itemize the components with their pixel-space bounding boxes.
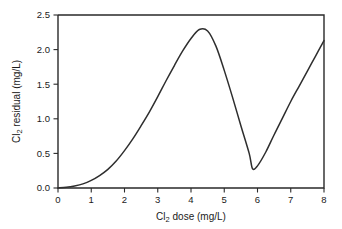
- x-tick-label: 3: [155, 194, 160, 205]
- y-tick-label: 1.0: [37, 113, 50, 124]
- chart-figure: 0.0 0.5 1.0 1.5 2.0 2.5 0 1 2 3 4 5 6 7 …: [0, 0, 342, 229]
- x-axis-title-pre: Cl: [156, 211, 165, 222]
- y-axis-title-pre: Cl: [11, 134, 22, 143]
- x-tick-label: 4: [188, 194, 193, 205]
- x-axis-title-post: dose (mg/L): [170, 211, 226, 222]
- x-tick-label: 7: [288, 194, 293, 205]
- y-tick-label: 1.5: [37, 79, 50, 90]
- x-tick-label: 8: [321, 194, 326, 205]
- x-tick-label: 0: [55, 194, 60, 205]
- y-tick-label: 0.0: [37, 182, 50, 193]
- x-tick-label: 5: [222, 194, 227, 205]
- y-tick-label: 2.0: [37, 44, 50, 55]
- y-tick-label: 2.5: [37, 9, 50, 20]
- y-axis-title-post: residual (mg/L): [11, 60, 22, 129]
- x-tick-label: 2: [122, 194, 127, 205]
- y-tick-label: 0.5: [37, 148, 50, 159]
- x-tick-label: 1: [89, 194, 94, 205]
- breakpoint-chlorination-chart: 0.0 0.5 1.0 1.5 2.0 2.5 0 1 2 3 4 5 6 7 …: [0, 0, 342, 229]
- x-tick-label: 6: [255, 194, 260, 205]
